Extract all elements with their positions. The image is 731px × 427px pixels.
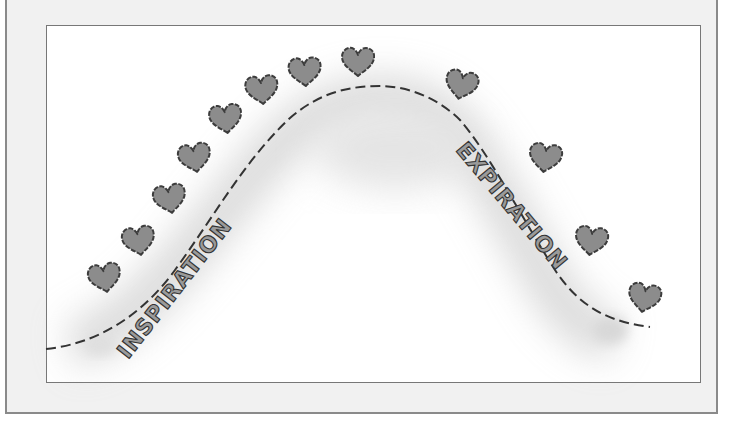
heart-icon — [176, 141, 213, 174]
heart-icon — [288, 57, 322, 87]
heart-icon — [244, 74, 279, 105]
heart-icon — [527, 142, 563, 174]
heart-icon — [151, 182, 188, 215]
breathing-wave-diagram: INSPIRATION EXPIRATION — [0, 0, 731, 427]
heart-icon — [208, 103, 244, 135]
heart-icon — [626, 281, 663, 314]
heart-icon — [573, 225, 609, 257]
heart-icon — [342, 48, 374, 76]
heart-icon — [120, 224, 157, 257]
heart-icon — [86, 261, 123, 294]
